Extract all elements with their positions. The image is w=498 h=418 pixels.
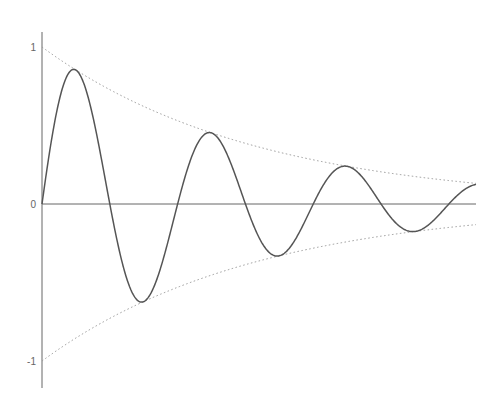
chart: 1 0 -1 [0,0,498,418]
y-tick-label-neg1: -1 [27,356,36,367]
damped-sine-curve [42,69,476,302]
y-tick-label-1: 1 [30,42,36,53]
lower-envelope-line [42,225,476,361]
y-tick-label-0: 0 [30,199,36,210]
upper-envelope-line [42,47,476,183]
